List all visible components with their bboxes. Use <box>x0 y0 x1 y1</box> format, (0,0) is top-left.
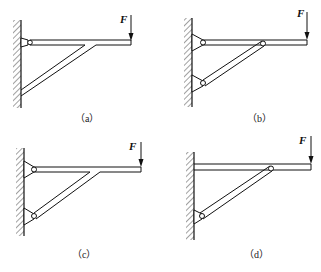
caption: （d） <box>244 249 269 260</box>
panel-a: F （a） <box>13 13 134 124</box>
caption: （c） <box>72 249 96 260</box>
beam <box>194 164 311 170</box>
pin-joint <box>261 41 266 46</box>
strut <box>34 172 100 219</box>
pin-support-upper <box>24 161 37 178</box>
force-arrow <box>139 142 144 167</box>
pin-support-lower <box>194 210 205 224</box>
force-label: F <box>128 140 137 152</box>
force-arrow <box>305 12 310 40</box>
wall-hatch <box>186 152 194 240</box>
pin-support-lower <box>24 208 37 225</box>
force-arrow <box>129 15 134 41</box>
panel-c: F （c） <box>16 140 144 260</box>
beam <box>203 40 307 45</box>
force-label: F <box>296 7 305 19</box>
panel-d: F （d） <box>186 134 314 260</box>
strut <box>21 45 96 96</box>
wall-hatch <box>184 18 192 107</box>
pin-support-lower <box>192 75 206 92</box>
beam <box>30 40 131 45</box>
beam <box>34 167 141 172</box>
frame-diagrams: F （a） F （b） <box>0 0 321 272</box>
strut <box>200 166 272 219</box>
wall-hatch <box>16 148 24 236</box>
strut <box>203 41 264 86</box>
pin-support-upper <box>192 34 206 51</box>
pin-joint <box>269 166 274 171</box>
force-label: F <box>298 134 307 146</box>
force-arrow <box>309 136 314 164</box>
pin-support <box>21 38 32 47</box>
force-label: F <box>119 13 128 25</box>
caption: （b） <box>247 113 272 124</box>
wall-hatch <box>13 20 21 108</box>
caption: （a） <box>75 113 99 124</box>
panel-b: F （b） <box>184 7 310 124</box>
